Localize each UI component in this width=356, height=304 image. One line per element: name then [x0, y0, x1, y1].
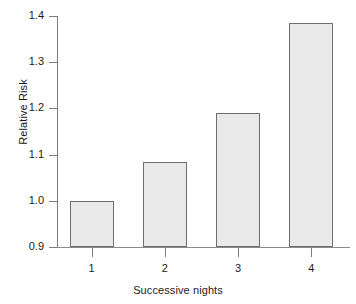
- bar: [70, 201, 114, 247]
- y-tick-mark: [49, 201, 57, 202]
- bar: [216, 113, 260, 247]
- x-axis-line: [57, 247, 350, 248]
- bar: [143, 162, 187, 247]
- y-tick-label-text: 0.9: [16, 241, 44, 252]
- y-tick-label: 1.0: [16, 201, 44, 202]
- x-tick-mark: [238, 248, 239, 257]
- x-tick-mark: [92, 248, 93, 257]
- x-tick-mark: [311, 248, 312, 257]
- x-axis-title: Successive nights: [0, 284, 356, 296]
- y-tick-label-text: 1.2: [16, 102, 44, 113]
- bar: [289, 23, 333, 247]
- x-tick-label: 2: [150, 262, 180, 274]
- x-tick-mark: [165, 248, 166, 257]
- y-tick-label-text: 1.3: [16, 56, 44, 67]
- y-tick-mark: [49, 62, 57, 63]
- x-tick-label: 4: [296, 262, 326, 274]
- y-tick-mark: [49, 108, 57, 109]
- y-tick-label: 1.4: [16, 16, 44, 17]
- x-tick-label: 1: [77, 262, 107, 274]
- y-tick-mark: [49, 247, 57, 248]
- y-tick-label: 0.9: [16, 247, 44, 248]
- y-tick-label-text: 1.1: [16, 149, 44, 160]
- y-tick-label-text: 1.0: [16, 195, 44, 206]
- y-tick-mark: [49, 155, 57, 156]
- y-tick-label: 1.2: [16, 108, 44, 109]
- bar-chart: Relative Risk 0.91.01.11.21.31.4 1234 Su…: [0, 0, 356, 304]
- x-tick-label: 3: [223, 262, 253, 274]
- y-tick-label: 1.3: [16, 62, 44, 63]
- y-axis-line: [57, 16, 58, 248]
- y-tick-mark: [49, 16, 57, 17]
- y-tick-label-text: 1.4: [16, 10, 44, 21]
- y-tick-label: 1.1: [16, 155, 44, 156]
